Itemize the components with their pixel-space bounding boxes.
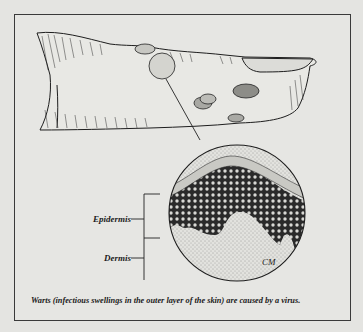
- skin-cross-section: [160, 140, 320, 290]
- label-brackets: [131, 194, 160, 280]
- finger-illustration: CM: [0, 0, 363, 332]
- finger-outline: [37, 32, 316, 130]
- dermis-label: Dermis: [104, 253, 131, 263]
- epidermis-label: Epidermis: [93, 214, 131, 224]
- artist-signature: CM: [262, 257, 276, 267]
- figure-caption: Warts (infectious swellings in the outer…: [31, 296, 300, 305]
